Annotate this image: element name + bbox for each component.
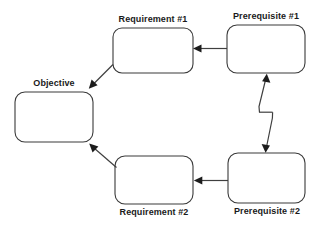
node-objective[interactable]	[15, 92, 93, 142]
node-label-objective: Objective	[14, 78, 94, 89]
node-label-requirement-1: Requirement #1	[113, 14, 193, 25]
edge-prerequisite2-to-requirement2	[194, 177, 228, 185]
edge-requirement2-to-objective	[89, 144, 116, 168]
node-requirement-1[interactable]	[113, 28, 193, 73]
diagram-svg	[0, 0, 321, 235]
node-requirement-2[interactable]	[115, 156, 193, 204]
node-prerequisite-2[interactable]	[228, 153, 305, 203]
edge-prerequisite1-to-prerequisite2	[262, 112, 273, 153]
node-label-prerequisite-2: Prerequisite #2	[227, 206, 307, 217]
node-label-prerequisite-1: Prerequisite #1	[226, 11, 306, 22]
diagram-canvas: Requirement #1 Prerequisite #1 Objective…	[0, 0, 321, 235]
edge-prerequisite1-to-requirement1	[193, 45, 227, 53]
edge-prerequisite2-to-prerequisite1	[259, 74, 273, 113]
node-label-requirement-2: Requirement #2	[114, 207, 194, 218]
node-prerequisite-1[interactable]	[227, 25, 305, 73]
